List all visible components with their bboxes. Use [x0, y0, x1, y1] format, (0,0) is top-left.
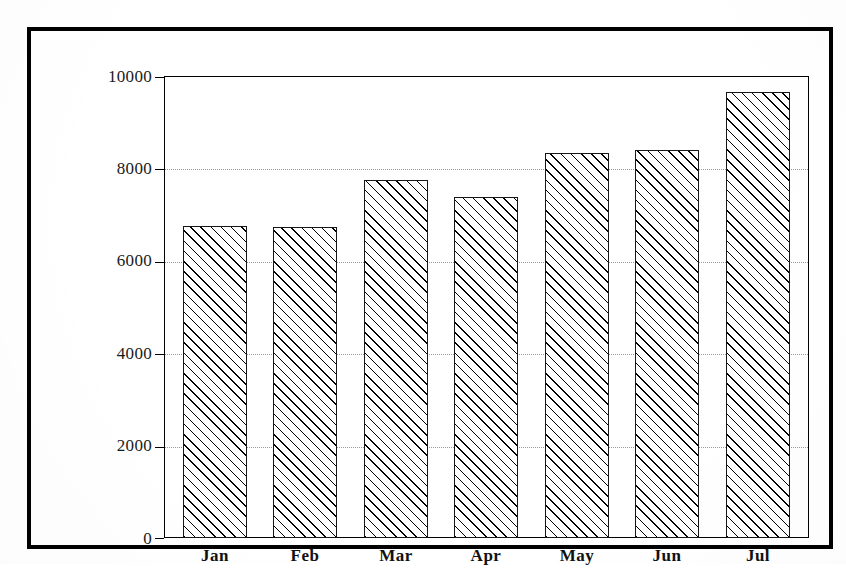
x-tick-label-jul: Jul	[718, 547, 798, 564]
y-tick-mark-8000	[155, 169, 164, 170]
y-tick-label-6000: 6000	[117, 252, 152, 269]
y-tick-mark-10000	[155, 77, 164, 78]
x-tick-label-feb: Feb	[265, 547, 345, 564]
x-tick-label-apr: Apr	[446, 547, 526, 564]
bar-series	[164, 76, 809, 538]
bar-mar[interactable]	[364, 180, 428, 539]
bar-feb[interactable]	[273, 227, 337, 538]
bar-apr[interactable]	[454, 197, 518, 538]
y-tick-label-10000: 10000	[108, 68, 152, 85]
figure-outer-frame: 10000 8000 6000 4000 2000 0	[27, 27, 833, 549]
x-axis-tick-labels: Jan Feb Mar Apr May Jun Jul	[164, 547, 809, 569]
y-tick-mark-4000	[155, 354, 164, 355]
bar-may[interactable]	[545, 153, 609, 538]
y-tick-mark-0	[155, 538, 164, 539]
y-axis-tick-labels: 10000 8000 6000 4000 2000 0	[56, 76, 152, 538]
bar-jun[interactable]	[635, 150, 699, 538]
bar-jul[interactable]	[726, 92, 790, 538]
y-tick-mark-2000	[155, 447, 164, 448]
x-tick-label-may: May	[537, 547, 617, 564]
y-tick-label-8000: 8000	[117, 160, 152, 177]
x-tick-label-mar: Mar	[356, 547, 436, 564]
y-tick-mark-6000	[155, 262, 164, 263]
y-tick-label-2000: 2000	[117, 437, 152, 454]
x-tick-label-jun: Jun	[627, 547, 707, 564]
bar-jan[interactable]	[183, 226, 247, 538]
y-tick-label-4000: 4000	[117, 345, 152, 362]
y-tick-label-0: 0	[143, 530, 152, 547]
x-tick-label-jan: Jan	[175, 547, 255, 564]
